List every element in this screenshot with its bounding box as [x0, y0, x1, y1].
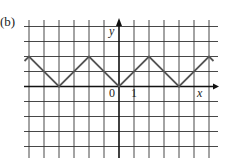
axes [24, 18, 219, 158]
x-tick-label-1: 1 [131, 86, 137, 101]
x-axis-label: x [197, 86, 202, 101]
y-axis-arrow-icon [116, 18, 122, 26]
panel-label: (b) [0, 14, 15, 30]
x-axis-arrow-icon [213, 84, 219, 90]
y-axis-label: y [109, 24, 114, 39]
origin-label: 0 [109, 86, 115, 101]
grid-lines [24, 20, 218, 158]
